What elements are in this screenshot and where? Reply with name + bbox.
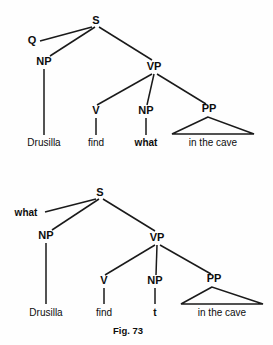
leaf-in-the-cave: in the cave bbox=[198, 307, 247, 318]
wh-question-deep-structure: SQNPVPVNPPPDrusillafindwhatin the cave bbox=[27, 14, 254, 148]
node-label-vp: VP bbox=[150, 231, 165, 243]
node-label-pp: PP bbox=[207, 272, 222, 284]
node-label-s: S bbox=[96, 186, 103, 198]
node-label-vp: VP bbox=[147, 60, 162, 72]
figure-caption: Fig. 73 bbox=[113, 325, 143, 336]
edge-VP-NP bbox=[156, 245, 157, 275]
edge-S-VP bbox=[103, 199, 155, 231]
leaf-what: what bbox=[134, 137, 158, 148]
node-label-v: V bbox=[100, 274, 108, 286]
leaf-find: find bbox=[88, 137, 104, 148]
edge-VP-PP bbox=[160, 245, 211, 274]
leaf-find: find bbox=[96, 307, 112, 318]
node-label-pp: PP bbox=[202, 102, 217, 114]
node-label-np: NP bbox=[138, 104, 153, 116]
fronted-wh-what: what bbox=[14, 207, 38, 218]
pp-triangle bbox=[172, 117, 254, 134]
wh-question-surface-structure: SNPVPVNPPPwhatDrusillafindtin the cave bbox=[14, 186, 263, 318]
leaf-drusilla: Drusilla bbox=[29, 307, 63, 318]
edge-VP-NP bbox=[147, 74, 154, 105]
leaf-trace: t bbox=[153, 307, 157, 318]
node-label-q: Q bbox=[28, 34, 37, 46]
edge-VP-V bbox=[105, 245, 155, 275]
edge-VP-V bbox=[97, 74, 152, 105]
node-label-np: NP bbox=[147, 274, 162, 286]
node-label-s: S bbox=[92, 14, 99, 26]
leaf-in-the-cave: in the cave bbox=[189, 137, 238, 148]
syntax-tree-figure: SQNPVPVNPPPDrusillafindwhatin the caveSN… bbox=[0, 0, 273, 345]
pp-triangle bbox=[181, 287, 263, 304]
edge-S-VP bbox=[99, 27, 152, 60]
leaf-drusilla: Drusilla bbox=[27, 137, 61, 148]
figure-container: SQNPVPVNPPPDrusillafindwhatin the caveSN… bbox=[0, 0, 273, 345]
edge-VP-PP bbox=[157, 74, 206, 104]
edge-S-NP bbox=[50, 27, 95, 56]
node-label-v: V bbox=[92, 104, 100, 116]
node-label-np: NP bbox=[36, 55, 51, 67]
node-label-np: NP bbox=[38, 229, 53, 241]
